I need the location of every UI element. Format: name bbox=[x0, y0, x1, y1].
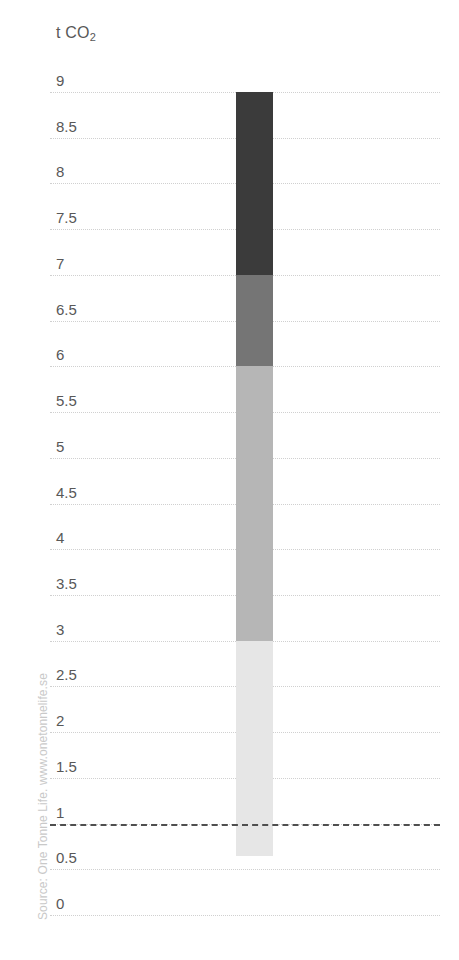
bar-segment-2[interactable] bbox=[236, 366, 273, 640]
axis-tick-label: 9 bbox=[56, 73, 64, 88]
chart-root: t CO2 Source: One Tonne Life. www.oneton… bbox=[0, 0, 459, 960]
axis-tick-label: 4.5 bbox=[56, 485, 77, 500]
axis-tick-label: 1 bbox=[56, 805, 64, 820]
axis-tick-label: 4 bbox=[56, 530, 64, 545]
bar-segment-3[interactable] bbox=[236, 275, 273, 366]
axis-tick-label: 5.5 bbox=[56, 393, 77, 408]
axis-tick-label: 8.5 bbox=[56, 119, 77, 134]
axis-tick-label: 2.5 bbox=[56, 667, 77, 682]
axis-tick-label: 5 bbox=[56, 439, 64, 454]
axis-tick-label: 7.5 bbox=[56, 210, 77, 225]
axis-tick-label: 0.5 bbox=[56, 850, 77, 865]
bar-segment-4[interactable] bbox=[236, 92, 273, 275]
stacked-bar[interactable] bbox=[236, 92, 273, 856]
plot-area: 98.587.576.565.554.543.532.521.510.50 bbox=[0, 0, 459, 960]
axis-tick-label: 2 bbox=[56, 713, 64, 728]
reference-line bbox=[50, 824, 440, 826]
axis-tick-label: 6 bbox=[56, 347, 64, 362]
gridline bbox=[50, 915, 440, 916]
gridline bbox=[50, 869, 440, 870]
axis-tick-label: 3.5 bbox=[56, 576, 77, 591]
axis-tick-label: 7 bbox=[56, 256, 64, 271]
axis-tick-label: 3 bbox=[56, 622, 64, 637]
axis-tick-label: 1.5 bbox=[56, 759, 77, 774]
axis-tick-label: 0 bbox=[56, 896, 64, 911]
axis-tick-label: 6.5 bbox=[56, 302, 77, 317]
axis-tick-label: 8 bbox=[56, 164, 64, 179]
